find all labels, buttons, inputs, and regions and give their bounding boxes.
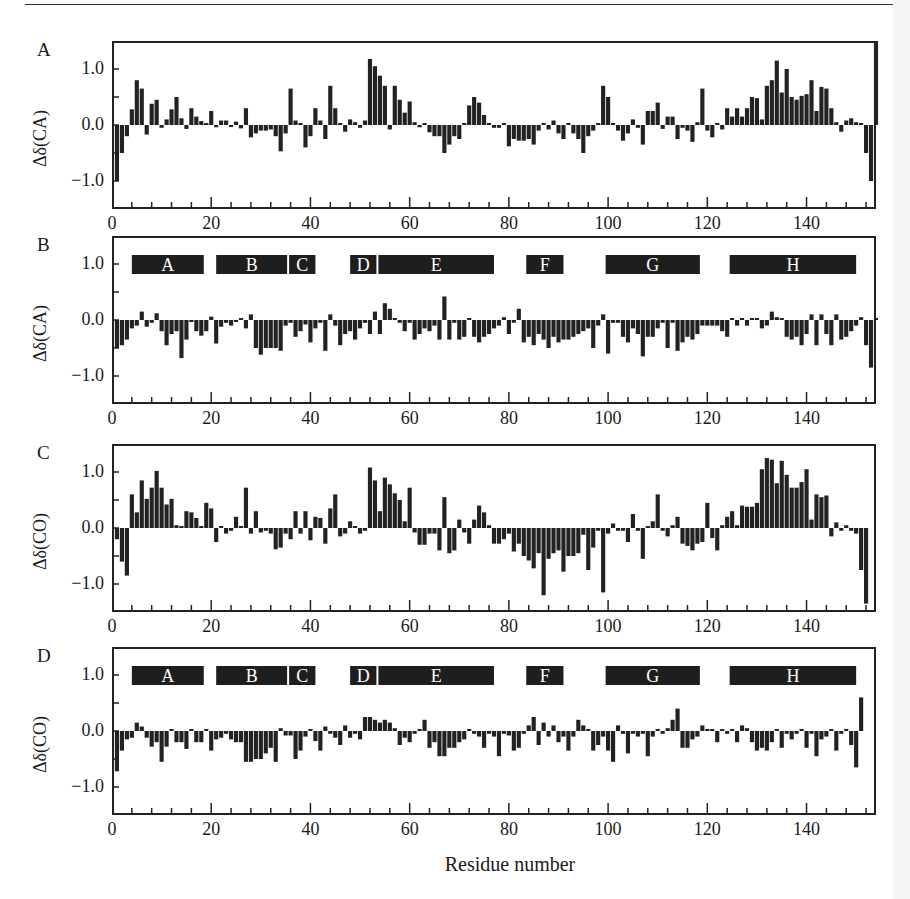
bar xyxy=(259,731,263,759)
bar xyxy=(705,729,709,731)
bar xyxy=(661,731,665,734)
bar xyxy=(164,731,168,747)
bar xyxy=(636,731,640,737)
bar xyxy=(214,731,218,739)
bar xyxy=(413,731,417,734)
bar xyxy=(770,731,774,742)
bar xyxy=(601,731,605,737)
bar xyxy=(408,731,412,742)
bar xyxy=(353,731,357,734)
bar xyxy=(765,731,769,751)
bar xyxy=(194,731,198,742)
bar xyxy=(566,731,570,751)
bar xyxy=(338,731,342,745)
bar xyxy=(239,731,243,742)
bar xyxy=(819,731,823,739)
helix-label: F xyxy=(540,666,550,686)
bar xyxy=(497,731,501,756)
bar xyxy=(398,731,402,745)
bar xyxy=(690,731,694,739)
bar xyxy=(219,731,223,738)
bar xyxy=(839,731,843,734)
bar xyxy=(651,731,655,737)
bar xyxy=(750,731,754,742)
bar xyxy=(725,731,729,734)
bar xyxy=(437,731,441,756)
bar xyxy=(234,731,238,742)
bar xyxy=(308,729,312,731)
bar xyxy=(720,729,724,731)
bar xyxy=(169,729,173,731)
bar xyxy=(427,731,431,748)
bar xyxy=(452,731,456,748)
bar xyxy=(646,731,650,756)
bar xyxy=(264,731,268,753)
bar xyxy=(641,731,645,734)
bar xyxy=(403,731,407,738)
bar xyxy=(700,725,704,731)
bar xyxy=(472,731,476,734)
bar xyxy=(209,731,213,751)
helix-label: D xyxy=(357,666,370,686)
bar xyxy=(621,731,625,734)
bar xyxy=(512,731,516,751)
bar xyxy=(576,720,580,731)
bar xyxy=(829,729,833,731)
bar xyxy=(378,723,382,731)
bar xyxy=(348,731,352,738)
bar xyxy=(760,731,764,748)
bar xyxy=(120,731,124,751)
bar xyxy=(358,731,362,739)
bar xyxy=(859,697,863,731)
bar xyxy=(561,731,565,737)
helix-label: E xyxy=(431,666,442,686)
bar xyxy=(581,725,585,731)
bar xyxy=(680,731,684,748)
bar xyxy=(289,731,293,735)
bar xyxy=(174,731,178,742)
bar xyxy=(631,731,635,734)
bar xyxy=(695,731,699,737)
helix-label: C xyxy=(296,666,308,686)
bar xyxy=(204,729,208,731)
bar xyxy=(507,731,511,735)
bar xyxy=(462,731,466,739)
bar xyxy=(323,727,327,731)
bar xyxy=(125,731,129,739)
bar xyxy=(611,731,615,762)
bar xyxy=(517,731,521,748)
bar xyxy=(616,725,620,731)
bar xyxy=(556,731,560,742)
bar xyxy=(184,731,188,749)
bar xyxy=(785,731,789,734)
bar xyxy=(368,717,372,731)
helix-label: A xyxy=(161,666,174,686)
bar xyxy=(467,729,471,731)
bar xyxy=(606,731,610,751)
bar xyxy=(745,728,749,731)
bar xyxy=(343,725,347,731)
bar xyxy=(135,723,139,731)
bar xyxy=(189,729,193,731)
bar xyxy=(854,731,858,767)
bar xyxy=(279,728,283,731)
bar xyxy=(675,709,679,731)
bar xyxy=(145,731,149,738)
bar xyxy=(809,731,813,734)
bar xyxy=(418,729,422,731)
bar xyxy=(849,731,853,745)
bar xyxy=(422,720,426,731)
bar xyxy=(477,731,481,737)
bar xyxy=(740,725,744,731)
bar xyxy=(775,729,779,731)
bar xyxy=(487,731,491,734)
bar xyxy=(318,731,322,751)
bar xyxy=(685,731,689,748)
bar xyxy=(293,731,297,759)
bar xyxy=(666,728,670,731)
bar xyxy=(834,731,838,751)
bar xyxy=(755,731,759,751)
bar xyxy=(715,731,719,742)
bar xyxy=(537,731,541,745)
bar xyxy=(671,720,675,731)
